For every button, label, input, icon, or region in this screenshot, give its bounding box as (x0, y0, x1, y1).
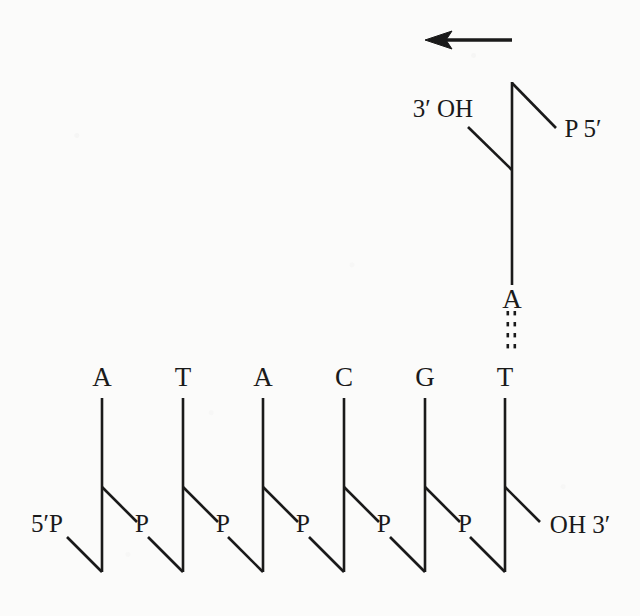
template-phosphate-4: P (377, 511, 391, 536)
template-base-1: A (92, 364, 112, 391)
template-strand-sugars (102, 398, 505, 572)
diagram-linework (0, 0, 640, 616)
template-base-4: C (335, 364, 353, 391)
template-phosphodiester-lower-diagonals (67, 537, 505, 572)
template-base-6: T (497, 364, 514, 391)
daughter-strand-backbone (468, 82, 556, 285)
daughter-3prime-oh-label: 3′ OH (413, 96, 473, 121)
template-phosphate-5: P (458, 511, 472, 536)
direction-arrow (425, 31, 512, 49)
template-3prime-oh-label: OH 3′ (550, 512, 610, 537)
template-phosphate-3: P (296, 511, 310, 536)
template-base-2: T (175, 364, 192, 391)
hydrogen-bond-dots (507, 311, 517, 348)
template-5prime-p-label: 5′P (31, 511, 63, 536)
template-base-5: G (415, 364, 435, 391)
daughter-5prime-p-label: P 5′ (564, 116, 601, 141)
template-base-3: A (253, 364, 273, 391)
template-phosphate-2: P (216, 511, 230, 536)
dna-diagram-figure: 3′ OH P 5′ A A T A C G T 5′P P P P P P O… (0, 0, 640, 616)
template-phosphate-1: P (135, 511, 149, 536)
template-phosphodiester-upper-diagonals (102, 487, 540, 522)
daughter-base-A: A (502, 286, 522, 313)
